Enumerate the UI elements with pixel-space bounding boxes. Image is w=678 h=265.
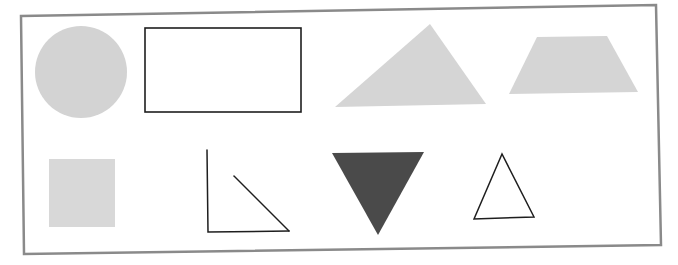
shapes-worksheet xyxy=(0,0,678,265)
scalene-triangle-shape xyxy=(335,24,486,107)
inverted-triangle-shape xyxy=(332,152,424,235)
trapezoid-shape xyxy=(509,36,638,94)
square-shape xyxy=(49,159,115,227)
outline-triangle-shape xyxy=(474,154,534,219)
rectangle-shape xyxy=(145,28,301,112)
circle-shape xyxy=(35,26,127,118)
open-right-angle-figure xyxy=(207,150,289,232)
